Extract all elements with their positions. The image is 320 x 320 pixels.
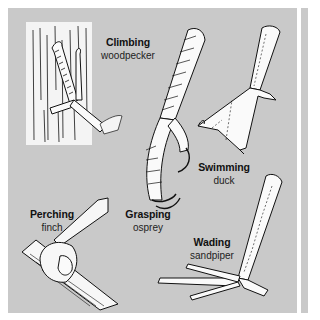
bird-finch: finch — [24, 223, 80, 233]
foot-type-climbing: Climbing — [100, 37, 156, 48]
bird-duck: duck — [196, 176, 252, 186]
label-grasping: Grasping osprey — [120, 209, 176, 233]
foot-type-wading: Wading — [184, 237, 240, 248]
bird-osprey: osprey — [120, 223, 176, 233]
bird-woodpecker: woodpecker — [100, 51, 156, 61]
bird-sandpiper: sandpiper — [184, 251, 240, 261]
foot-type-perching: Perching — [24, 209, 80, 220]
foot-type-swimming: Swimming — [196, 162, 252, 173]
duck-foot-drawing — [198, 26, 280, 154]
label-wading: Wading sandpiper — [184, 237, 240, 261]
label-swimming: Swimming duck — [196, 162, 252, 186]
foot-type-grasping: Grasping — [120, 209, 176, 220]
label-perching: Perching finch — [24, 209, 80, 233]
label-climbing: Climbing woodpecker — [100, 37, 156, 61]
